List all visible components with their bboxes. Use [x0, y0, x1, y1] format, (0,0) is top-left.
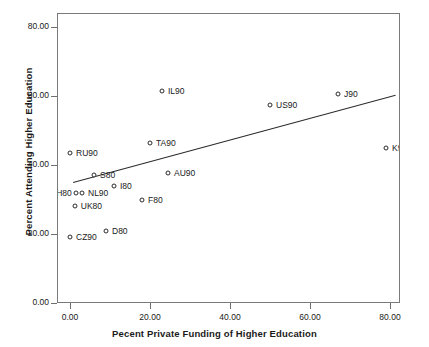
x-tick-mark	[70, 303, 71, 309]
x-tick-label: 60.00	[299, 312, 320, 322]
data-point[interactable]	[160, 88, 165, 93]
data-point[interactable]	[68, 235, 73, 240]
data-point[interactable]	[68, 150, 73, 155]
x-tick-label: 20.00	[139, 312, 160, 322]
data-point[interactable]	[112, 183, 117, 188]
data-point-label: J90	[344, 89, 358, 99]
data-point-label: NL90	[88, 188, 108, 198]
x-tick-mark	[230, 303, 231, 309]
regression-line	[73, 95, 396, 183]
data-point[interactable]	[148, 140, 153, 145]
x-axis-title: Pecent Private Funding of Higher Educati…	[0, 328, 429, 339]
scatter-plot-figure: Percent Attending Higher Education 0.002…	[0, 0, 429, 347]
data-point-label: K90	[392, 143, 399, 153]
data-point-label: RU90	[76, 148, 98, 158]
x-tick-mark	[310, 303, 311, 309]
data-point[interactable]	[104, 229, 109, 234]
data-point-label: TA90	[156, 138, 176, 148]
data-point[interactable]	[384, 145, 389, 150]
data-point-label: US90	[276, 100, 297, 110]
data-point-label: IL90	[168, 86, 185, 96]
y-tick-label: 20.00	[28, 228, 49, 238]
data-point-label: AU90	[174, 168, 195, 178]
y-tick-mark	[51, 303, 57, 304]
y-tick-label: 60.00	[28, 90, 49, 100]
x-tick-label: 80.00	[379, 312, 400, 322]
data-point[interactable]	[80, 190, 85, 195]
data-point[interactable]	[166, 170, 171, 175]
data-point[interactable]	[74, 190, 79, 195]
data-point-label: CH80	[58, 188, 72, 198]
y-tick-label: 80.00	[28, 21, 49, 31]
data-point[interactable]	[72, 204, 77, 209]
x-tick-mark	[150, 303, 151, 309]
data-point[interactable]	[336, 92, 341, 97]
data-point[interactable]	[92, 173, 97, 178]
y-tick-label: 0.00	[32, 297, 49, 307]
y-tick-label: 40.00	[28, 159, 49, 169]
data-point-label: D80	[112, 226, 128, 236]
data-point-label: F80	[148, 195, 163, 205]
data-point-label: I80	[120, 181, 132, 191]
x-tick-mark	[390, 303, 391, 309]
data-point[interactable]	[140, 197, 145, 202]
data-point[interactable]	[268, 102, 273, 107]
data-point-label: S80	[100, 170, 115, 180]
data-point-label: CZ90	[76, 232, 97, 242]
plot-area: RU90CZ90CH80UK80NL90S80D80I80F80TA90IL90…	[58, 14, 399, 302]
data-point-label: UK80	[81, 201, 102, 211]
x-tick-label: 40.00	[219, 312, 240, 322]
x-tick-label: 0.00	[62, 312, 79, 322]
